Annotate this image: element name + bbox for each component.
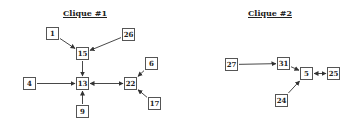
node-4: 4	[23, 77, 36, 90]
edge-27-31	[239, 64, 276, 65]
node-25: 25	[327, 67, 340, 80]
clique-1-title: Clique #1	[63, 8, 107, 18]
edge-6-22	[138, 71, 144, 77]
node-27: 27	[225, 58, 238, 71]
node-6: 6	[145, 57, 158, 70]
diagram-canvas: Clique #1 Clique #2 12615413226179273152…	[0, 0, 360, 128]
edges-layer	[0, 0, 360, 128]
edge-24-5	[288, 81, 299, 93]
node-1: 1	[46, 27, 59, 40]
node-5: 5	[300, 67, 313, 80]
edge-1-15	[60, 39, 75, 49]
node-9: 9	[76, 105, 89, 118]
node-13: 13	[76, 77, 89, 90]
edge-17-22	[138, 90, 147, 98]
clique-2-title: Clique #2	[248, 8, 292, 18]
node-31: 31	[277, 57, 290, 70]
edge-26-15	[90, 38, 121, 51]
edge-31-5	[291, 67, 299, 70]
node-26: 26	[122, 28, 135, 41]
node-24: 24	[275, 94, 288, 107]
node-22: 22	[124, 77, 137, 90]
node-17: 17	[148, 97, 161, 110]
node-15: 15	[76, 47, 89, 60]
